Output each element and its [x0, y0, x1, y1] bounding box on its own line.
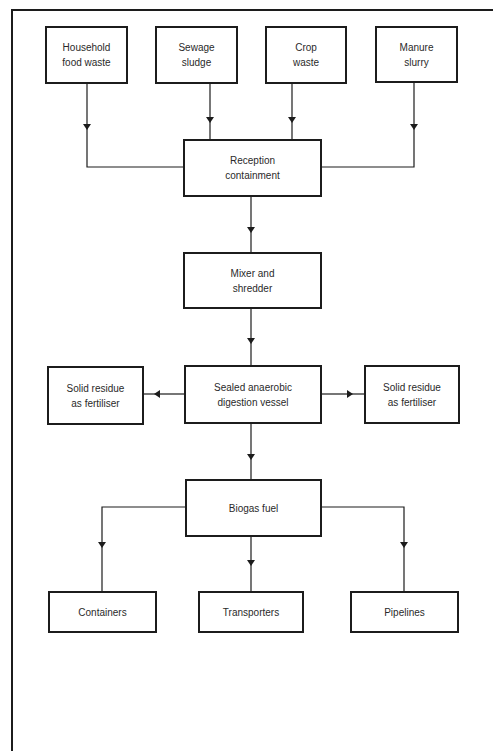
- input-box-crop-waste: Crop waste: [265, 26, 347, 84]
- box-label: Sealed anaerobic digestion vessel: [214, 380, 292, 410]
- input-box-household-food-waste: Household food waste: [45, 26, 128, 84]
- output-box-containers: Containers: [48, 591, 157, 633]
- box-label: Sewage sludge: [178, 40, 214, 70]
- box-label: Containers: [78, 605, 126, 620]
- box-label: Solid residue as fertiliser: [383, 380, 441, 410]
- input-box-manure-slurry: Manure slurry: [375, 26, 458, 83]
- biogas-fuel-box: Biogas fuel: [185, 479, 322, 537]
- output-box-transporters: Transporters: [198, 591, 304, 633]
- box-label: Crop waste: [293, 40, 319, 70]
- box-label: Transporters: [223, 605, 279, 620]
- solid-residue-right-box: Solid residue as fertiliser: [364, 365, 460, 424]
- output-box-pipelines: Pipelines: [350, 591, 459, 633]
- box-label: Reception containment: [225, 153, 279, 183]
- box-label: Solid residue as fertiliser: [67, 381, 125, 411]
- box-label: Mixer and shredder: [231, 266, 275, 296]
- box-label: Biogas fuel: [229, 501, 278, 516]
- input-box-sewage-sludge: Sewage sludge: [155, 26, 238, 84]
- box-label: Pipelines: [384, 605, 425, 620]
- box-label: Household food waste: [62, 40, 110, 70]
- digestion-vessel-box: Sealed anaerobic digestion vessel: [184, 365, 322, 424]
- solid-residue-left-box: Solid residue as fertiliser: [47, 366, 144, 425]
- box-label: Manure slurry: [400, 40, 434, 70]
- reception-containment-box: Reception containment: [183, 139, 322, 197]
- mixer-shredder-box: Mixer and shredder: [183, 252, 322, 309]
